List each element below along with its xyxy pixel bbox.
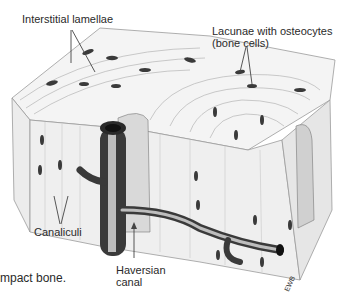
label-haversian: Haversian [116,264,166,276]
label-interstitial-lamellae: Interstitial lamellae [22,13,113,25]
caption-fragment: mpact bone. [0,272,66,284]
label-canaliculi: Canaliculi [34,226,82,238]
bone-block-front [12,98,30,232]
label-lacunae-sub: (bone cells) [212,37,269,49]
label-lacunae: Lacunae with osteocytes [212,25,332,37]
compact-bone-illustration [0,0,348,298]
label-haversian-canal: canal [116,276,142,288]
